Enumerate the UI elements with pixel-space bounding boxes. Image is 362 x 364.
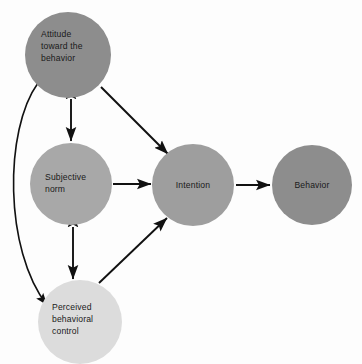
subjective-norm-label-line-2: norm — [45, 184, 65, 194]
behavior-label: Behavior — [294, 180, 329, 190]
node-intention[interactable]: Intention — [152, 144, 234, 226]
subjective-norm-label-line-1: Subjective — [45, 172, 86, 182]
attitude-label-line-1: Attitude — [41, 29, 71, 39]
edge-attitude-intention — [101, 87, 168, 154]
tpb-diagram: Attitude toward the behavior Subjective … — [0, 0, 362, 364]
node-attitude-toward-the-behavior[interactable]: Attitude toward the behavior — [25, 12, 111, 98]
diagram-canvas: Attitude toward the behavior Subjective … — [0, 0, 362, 364]
attitude-label-line-3: behavior — [41, 53, 75, 63]
pbc-label-line-1: Perceived — [52, 302, 92, 312]
pbc-label-line-3: control — [52, 326, 79, 336]
node-subjective-norm[interactable]: Subjective norm — [30, 143, 112, 225]
edge-perceived-behavioral-control-intention — [99, 218, 167, 283]
attitude-label-line-2: toward the — [41, 41, 83, 51]
subjective-norm-circle[interactable] — [30, 143, 112, 225]
intention-label: Intention — [176, 180, 210, 190]
pbc-label-line-2: behavioral — [52, 314, 93, 324]
node-perceived-behavioral-control[interactable]: Perceived behavioral control — [38, 280, 122, 364]
node-behavior[interactable]: Behavior — [272, 145, 352, 225]
